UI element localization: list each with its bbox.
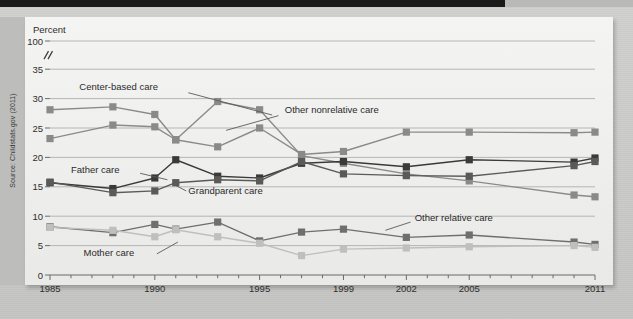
data-point-marker [46, 135, 53, 142]
x-tick-label-1995: 1995 [249, 283, 270, 294]
data-point-marker [403, 163, 410, 170]
data-point-marker [591, 244, 598, 251]
y-tick-labels-group: 05101520253035100 [27, 36, 43, 281]
y-tick-label-10: 10 [32, 211, 43, 222]
y-tick-label-25: 25 [32, 123, 43, 134]
data-point-marker [466, 156, 473, 163]
data-point-marker [403, 172, 410, 179]
data-point-marker [340, 148, 347, 155]
data-point-marker [570, 129, 577, 136]
axis-break-slash-2 [48, 51, 53, 59]
axis-break-slash-1 [44, 51, 49, 59]
data-point-marker [466, 173, 473, 180]
x-tick-label-1985: 1985 [39, 283, 60, 294]
data-point-marker [172, 136, 179, 143]
data-point-marker [109, 103, 116, 110]
data-point-marker [46, 106, 53, 113]
x-tick-labels-group: 1985199019951999200220052011 [39, 283, 605, 294]
data-point-marker [151, 233, 158, 240]
data-point-marker [570, 162, 577, 169]
y-tick-label-15: 15 [32, 181, 43, 192]
line-chart-plot: 05101520253035100 1985199019951999200220… [0, 0, 633, 319]
data-point-marker [151, 111, 158, 118]
data-point-marker [151, 187, 158, 194]
data-point-marker [172, 226, 179, 233]
series-line [50, 162, 595, 193]
series-line [50, 102, 595, 197]
leader-line-mother-care [157, 242, 178, 254]
data-point-marker [403, 234, 410, 241]
leader-line-center-based-care [188, 93, 272, 115]
data-point-marker [151, 123, 158, 130]
series-label-father-care: Father care [71, 164, 120, 175]
data-point-marker [256, 124, 263, 131]
y-tick-label-20: 20 [32, 152, 43, 163]
series-line [50, 125, 595, 154]
x-tick-label-2002: 2002 [396, 283, 417, 294]
y-axis-title: Percent [33, 24, 66, 35]
data-point-marker [109, 189, 116, 196]
axis-break-marker [44, 51, 53, 59]
series-line [50, 158, 595, 189]
data-point-marker [466, 243, 473, 250]
x-tick-label-2011: 2011 [585, 283, 605, 294]
data-point-marker [591, 129, 598, 136]
data-point-marker [340, 246, 347, 253]
y-tick-label-5: 5 [38, 240, 43, 251]
data-point-marker [256, 177, 263, 184]
gridlines-group [50, 41, 595, 246]
data-point-marker [340, 158, 347, 165]
data-point-marker [109, 121, 116, 128]
series-label-grandparent-care: Grandparent care [188, 185, 262, 196]
data-point-marker [340, 170, 347, 177]
leader-line-grandparent-care [174, 184, 187, 190]
data-point-marker [570, 242, 577, 249]
data-point-marker [403, 244, 410, 251]
data-point-marker [172, 156, 179, 163]
y-tick-label-100: 100 [27, 36, 43, 47]
data-point-marker [298, 252, 305, 259]
data-point-marker [570, 191, 577, 198]
series-center-based-care [46, 121, 598, 158]
x-tick-label-1990: 1990 [144, 283, 165, 294]
data-point-marker [214, 143, 221, 150]
data-point-marker [214, 176, 221, 183]
data-point-marker [256, 240, 263, 247]
leader-line-other-relative-care [385, 222, 410, 230]
data-point-marker [298, 228, 305, 235]
data-point-marker [46, 224, 53, 231]
data-point-marker [591, 193, 598, 200]
data-series-group [46, 98, 598, 259]
series-label-mother-care: Mother care [84, 247, 135, 258]
series-label-center-based-care: Center-based care [79, 81, 158, 92]
data-point-marker [403, 129, 410, 136]
data-point-marker [591, 158, 598, 165]
screenshot-root: Source: Childstats.gov (2011) 0510152025… [0, 0, 633, 319]
data-point-marker [46, 179, 53, 186]
data-point-marker [466, 129, 473, 136]
y-tick-label-30: 30 [32, 93, 43, 104]
data-point-marker [466, 231, 473, 238]
y-tick-label-0: 0 [38, 270, 43, 281]
data-point-marker [109, 227, 116, 234]
data-point-marker [151, 174, 158, 181]
series-label-other-relative-care: Other relative care [415, 212, 493, 223]
data-point-marker [151, 221, 158, 228]
x-tick-label-2005: 2005 [459, 283, 480, 294]
data-point-marker [298, 158, 305, 165]
data-point-marker [214, 233, 221, 240]
data-point-marker [340, 226, 347, 233]
data-point-marker [214, 218, 221, 225]
x-tick-label-1999: 1999 [333, 283, 354, 294]
series-label-other-nonrelative-care: Other nonrelative care [285, 104, 379, 115]
y-tick-label-35: 35 [32, 64, 43, 75]
series-grandparent-care [46, 158, 598, 196]
